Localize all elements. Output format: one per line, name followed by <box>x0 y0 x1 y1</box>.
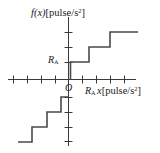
x-axis-tick-label-ra-sub: A <box>91 89 95 96</box>
x-axis-label: x[pulse/s2] <box>97 86 141 97</box>
y-axis-label: f(x)[pulse/s2] <box>31 8 85 19</box>
staircase-negative-branch <box>18 97 69 142</box>
y-axis-tick-label-ra-sub: A <box>54 58 58 65</box>
y-axis-label-unit-open: [pulse/s <box>46 7 79 18</box>
plot-canvas <box>0 0 160 153</box>
y-axis-tick-label-ra: RA <box>48 55 59 66</box>
y-axis-label-arg: (x) <box>34 7 46 18</box>
origin-label: O <box>65 83 72 93</box>
staircase-function-figure: f(x)[pulse/s2] x[pulse/s2] RA RA O <box>0 0 160 153</box>
x-axis-label-unit-close: ] <box>138 85 142 96</box>
x-axis-tick-label-ra: RA <box>85 86 96 97</box>
y-axis-label-unit-close: ] <box>82 7 86 18</box>
x-axis-label-unit-open: [pulse/s <box>102 85 135 96</box>
staircase-positive-branch <box>71 32 139 80</box>
